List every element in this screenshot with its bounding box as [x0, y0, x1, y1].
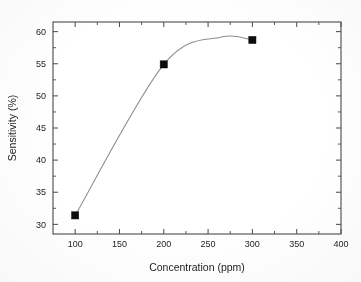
- sensitivity-vs-concentration-chart: 100150200250300350400 30354045505560 Con…: [0, 0, 361, 282]
- y-tick-label: 50: [36, 91, 46, 101]
- x-axis-tick-labels: 100150200250300350400: [68, 239, 349, 249]
- x-tick-label: 100: [68, 239, 83, 249]
- data-point-marker: [160, 61, 167, 68]
- y-tick-label: 60: [36, 27, 46, 37]
- y-tick-label: 45: [36, 123, 46, 133]
- y-axis-tick-labels: 30354045505560: [36, 27, 46, 230]
- data-point-marker: [72, 212, 79, 219]
- y-tick-label: 35: [36, 187, 46, 197]
- x-axis-title: Concentration (ppm): [149, 261, 245, 273]
- figure-container: 100150200250300350400 30354045505560 Con…: [0, 0, 361, 282]
- x-tick-label: 200: [156, 239, 171, 249]
- x-tick-label: 150: [112, 239, 127, 249]
- x-tick-label: 400: [333, 239, 348, 249]
- x-tick-label: 300: [245, 239, 260, 249]
- data-point-marker: [249, 36, 256, 43]
- y-tick-label: 40: [36, 155, 46, 165]
- y-tick-label: 30: [36, 220, 46, 230]
- y-axis-title: Sensitivity (%): [6, 95, 18, 162]
- y-tick-label: 55: [36, 59, 46, 69]
- x-tick-label: 350: [289, 239, 304, 249]
- plot-area-background: [53, 22, 341, 234]
- x-tick-label: 250: [201, 239, 216, 249]
